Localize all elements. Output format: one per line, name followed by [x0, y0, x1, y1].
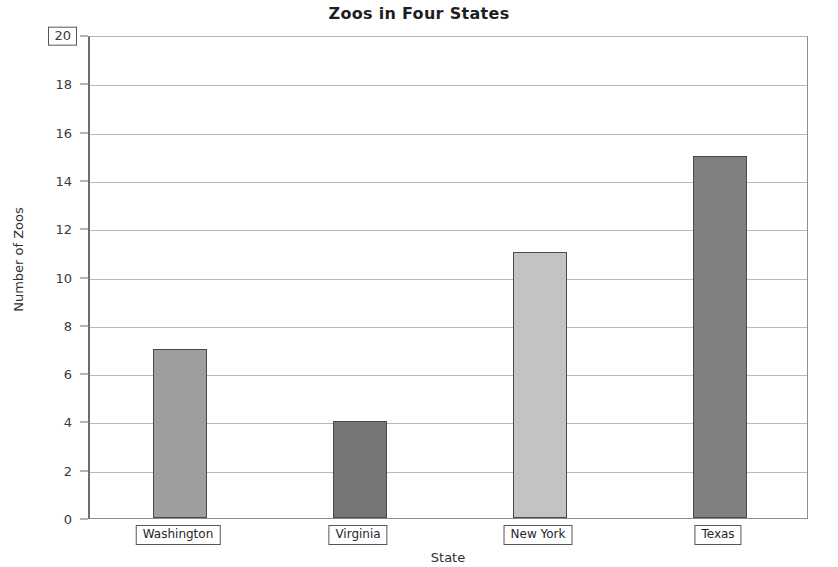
y-tick-mark — [80, 84, 88, 85]
y-tick-mark — [80, 519, 88, 520]
x-tick-label[interactable]: Texas — [694, 525, 741, 545]
y-tick-label[interactable]: 0 — [64, 512, 72, 527]
y-tick-label[interactable]: 12 — [55, 222, 72, 237]
y-tick-label[interactable]: 14 — [55, 173, 72, 188]
x-tick-label[interactable]: Virginia — [328, 525, 387, 545]
y-axis: Number of Zoos 02468101214161820 — [0, 36, 88, 519]
y-tick-label[interactable]: 2 — [64, 463, 72, 478]
y-tick-label[interactable]: 10 — [55, 270, 72, 285]
y-tick-mark — [80, 36, 88, 37]
y-axis-max-field[interactable]: 20 — [48, 27, 77, 46]
x-axis: WashingtonVirginiaNew YorkTexas — [88, 525, 808, 549]
y-tick-mark — [80, 180, 88, 181]
y-axis-title: Number of Zoos — [11, 180, 26, 340]
y-tick-mark — [80, 229, 88, 230]
x-tick-label[interactable]: New York — [504, 525, 573, 545]
y-tick-mark — [80, 277, 88, 278]
y-tick-label[interactable]: 18 — [55, 77, 72, 92]
y-tick-label[interactable]: 4 — [64, 415, 72, 430]
x-tick-label[interactable]: Washington — [136, 525, 221, 545]
y-tick-mark — [80, 325, 88, 326]
y-tick-mark — [80, 132, 88, 133]
x-axis-title: State — [88, 550, 808, 565]
plot-area — [88, 36, 808, 519]
bar[interactable] — [333, 421, 387, 518]
y-tick-label[interactable]: 6 — [64, 367, 72, 382]
gridline — [90, 134, 807, 135]
bar[interactable] — [153, 349, 207, 518]
chart-title: Zoos in Four States — [0, 4, 838, 23]
bar[interactable] — [513, 252, 567, 518]
y-tick-mark — [80, 470, 88, 471]
y-tick-mark — [80, 374, 88, 375]
y-tick-mark — [80, 422, 88, 423]
gridline — [90, 85, 807, 86]
bar-chart: Zoos in Four States Number of Zoos 02468… — [0, 0, 838, 567]
y-tick-label[interactable]: 8 — [64, 318, 72, 333]
bar[interactable] — [693, 156, 747, 518]
y-tick-label[interactable]: 16 — [55, 125, 72, 140]
